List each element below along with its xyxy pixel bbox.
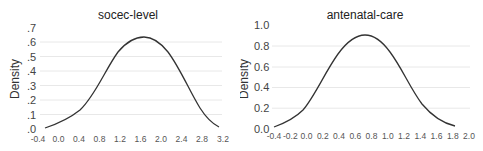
x-tick: 2.0: [155, 134, 167, 144]
y-tick: 1.0: [254, 19, 269, 31]
x-tick: -0.4: [267, 131, 282, 141]
x-tick: 0.0: [301, 131, 313, 141]
y-tick: .6: [27, 36, 36, 48]
x-tick: 0.4: [73, 134, 85, 144]
gridlines: [272, 46, 470, 108]
x-tick: -0.4: [31, 134, 46, 144]
x-axis-ticks: -0.4 0.0 0.4 0.8 1.2 1.6 2.0 2.4 2.8 3.2: [31, 134, 230, 144]
socec-level-plot: socec-level Density .0 .1 .2 .3 .4 .5 .6…: [0, 0, 240, 151]
y-axis-label: Density: [8, 59, 22, 99]
x-tick: 1.4: [414, 131, 426, 141]
x-tick: 0.8: [366, 131, 378, 141]
y-tick: .2: [27, 94, 36, 106]
x-tick: 0.4: [333, 131, 345, 141]
x-tick: 1.2: [398, 131, 410, 141]
y-tick: .5: [27, 51, 36, 63]
socec-level-chart: socec-level Density .0 .1 .2 .3 .4 .5 .6…: [0, 0, 240, 151]
density-curve: [274, 35, 455, 127]
x-tick: 1.6: [431, 131, 443, 141]
x-tick: 2.8: [196, 134, 208, 144]
y-tick: 0.6: [254, 61, 269, 73]
x-tick: 0.6: [349, 131, 361, 141]
x-tick: 3.2: [217, 134, 229, 144]
x-tick: 0.8: [94, 134, 106, 144]
gridlines: [40, 42, 222, 115]
y-axis-label: Density: [240, 59, 251, 99]
y-axis-ticks: .0 .1 .2 .3 .4 .5 .6 .7: [27, 22, 36, 136]
x-tick: 0.0: [53, 134, 65, 144]
x-tick: 0.2: [317, 131, 329, 141]
y-tick: 0.2: [254, 102, 269, 114]
x-tick: 1.2: [114, 134, 126, 144]
x-tick: 1.8: [447, 131, 459, 141]
y-tick: .4: [27, 65, 36, 77]
chart-title: antenatal-care: [327, 8, 404, 22]
x-tick: 2.0: [463, 131, 475, 141]
antenatal-care-chart: antenatal-care Density 0.0 0.2 0.4 0.6 0…: [240, 0, 483, 151]
x-tick: 2.4: [176, 134, 188, 144]
y-tick: .1: [27, 109, 36, 121]
y-tick: 0.4: [254, 81, 269, 93]
y-tick: 0.8: [254, 40, 269, 52]
antenatal-care-plot: antenatal-care Density 0.0 0.2 0.4 0.6 0…: [240, 0, 483, 151]
x-axis-ticks: -0.4 -0.2 0.0 0.2 0.4 0.6 0.8 1.0 1.2 1.…: [267, 131, 476, 141]
x-tick: 1.6: [135, 134, 147, 144]
x-tick: -0.2: [283, 131, 298, 141]
y-tick: .7: [27, 22, 36, 34]
x-tick: 1.0: [382, 131, 394, 141]
y-tick: .3: [27, 80, 36, 92]
y-axis-ticks: 0.0 0.2 0.4 0.6 0.8 1.0: [254, 19, 269, 135]
chart-title: socec-level: [98, 8, 158, 22]
